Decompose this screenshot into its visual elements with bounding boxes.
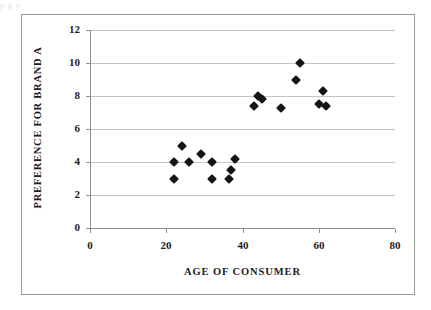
data-point	[169, 157, 179, 167]
data-point	[276, 103, 286, 113]
x-tick-mark	[395, 229, 396, 233]
gridline-horizontal	[90, 162, 395, 163]
data-point	[207, 174, 217, 184]
y-tick-label: 0	[58, 221, 80, 233]
gridline-horizontal	[90, 129, 395, 130]
y-tick-label: 4	[58, 155, 80, 167]
gridline-horizontal	[90, 63, 395, 64]
x-tick-label: 80	[380, 239, 410, 251]
y-axis-line	[90, 30, 91, 228]
data-point	[291, 75, 301, 85]
x-tick-label: 20	[151, 239, 181, 251]
x-tick-mark	[166, 229, 167, 233]
data-point	[184, 157, 194, 167]
x-axis-title: AGE OF CONSUMER	[90, 266, 395, 277]
gridline-horizontal	[90, 195, 395, 196]
y-tick-label: 12	[58, 23, 80, 35]
y-tick-label: 2	[58, 188, 80, 200]
y-axis-title: PREFERENCE FOR BRAND A	[32, 28, 43, 228]
y-tick-label: 10	[58, 56, 80, 68]
data-point	[207, 157, 217, 167]
data-point	[224, 174, 234, 184]
x-tick-label: 40	[228, 239, 258, 251]
data-point	[196, 149, 206, 159]
gridline-horizontal	[90, 96, 395, 97]
scatter-plot: 024681012 020406080 AGE OF CONSUMER PREF…	[0, 0, 431, 310]
y-tick-label: 6	[58, 122, 80, 134]
data-point	[321, 101, 331, 111]
data-point	[177, 141, 187, 151]
data-point	[249, 101, 259, 111]
x-tick-label: 60	[304, 239, 334, 251]
x-tick-mark	[243, 229, 244, 233]
y-tick-label: 8	[58, 89, 80, 101]
data-point	[318, 86, 328, 96]
x-tick-label: 0	[75, 239, 105, 251]
gridline-horizontal	[90, 30, 395, 31]
data-point	[295, 58, 305, 68]
x-tick-mark	[90, 229, 91, 233]
data-point	[169, 174, 179, 184]
x-tick-mark	[319, 229, 320, 233]
